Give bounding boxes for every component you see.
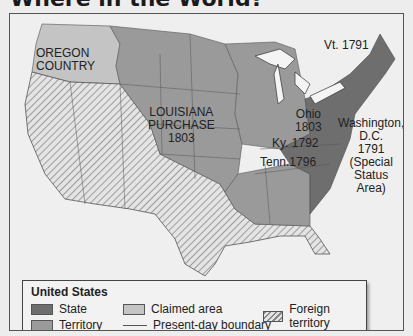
state-swatch bbox=[31, 304, 53, 315]
label-washington-dc: Washington, D.C. 1791 (Special Status Ar… bbox=[338, 117, 404, 195]
legend-item-foreign: Foreign territory bbox=[263, 302, 366, 330]
map-frame: OREGON COUNTRY LOUISIANA PURCHASE 1803 V… bbox=[9, 13, 404, 331]
label-tennessee: Tenn.1796 bbox=[260, 156, 316, 169]
label-oregon-country: OREGON COUNTRY bbox=[36, 47, 95, 73]
label-kentucky: Ky. 1792 bbox=[272, 137, 318, 150]
label-vermont: Vt. 1791 bbox=[324, 39, 369, 52]
legend-item-claimed: Claimed area bbox=[123, 302, 222, 316]
foreign-swatch bbox=[263, 311, 283, 322]
legend-item-territory: Territory bbox=[31, 318, 102, 331]
legend-title: United States bbox=[31, 285, 108, 299]
territory-swatch bbox=[31, 320, 53, 331]
map-legend: United States State Territory Claimed ar… bbox=[22, 280, 367, 331]
legend-item-state: State bbox=[31, 302, 87, 316]
label-louisiana-purchase: LOUISIANA PURCHASE 1803 bbox=[148, 106, 215, 145]
claimed-swatch bbox=[123, 304, 145, 315]
page-title: Where in the World? bbox=[10, 0, 263, 11]
legend-item-boundary: Present-day boundary bbox=[123, 318, 271, 331]
boundary-line-swatch bbox=[123, 325, 147, 326]
label-ohio: Ohio 1803 bbox=[295, 108, 322, 134]
